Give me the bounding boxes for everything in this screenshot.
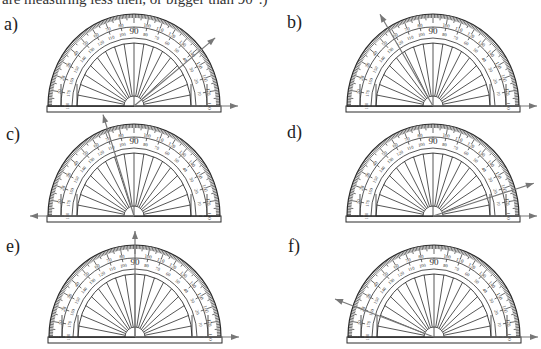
svg-text:90: 90 [429, 26, 439, 36]
protractor: 0180101702016030150401405013060120701108… [47, 14, 221, 112]
svg-text:90: 90 [430, 257, 440, 267]
svg-text:90: 90 [429, 136, 439, 146]
svg-text:90: 90 [130, 136, 140, 146]
svg-text:180: 180 [207, 212, 212, 220]
protractor: 0180101702016030150401405013060120701108… [346, 14, 520, 112]
protractor: 0180101702016030150401405013060120701108… [346, 124, 520, 222]
protractor: 0180101702016030150401405013060120701108… [47, 124, 221, 222]
svg-text:180: 180 [364, 102, 369, 110]
svg-text:90: 90 [130, 26, 140, 36]
protractor: 0180101702016030150401405013060120701108… [347, 245, 521, 343]
svg-text:180: 180 [364, 212, 369, 220]
protractor-exercises: 0180101702016030150401405013060120701108… [0, 0, 541, 349]
svg-text:180: 180 [365, 333, 370, 341]
svg-text:180: 180 [65, 102, 70, 110]
svg-text:180: 180 [66, 333, 71, 341]
